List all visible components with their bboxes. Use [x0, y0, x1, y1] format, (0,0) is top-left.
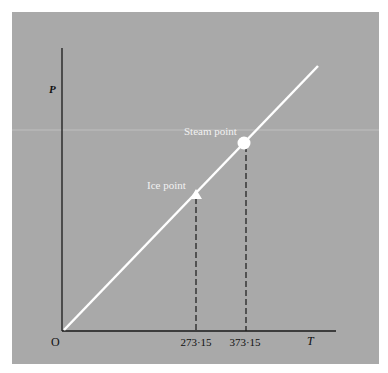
- steam-point-tick-label: 373·15: [229, 336, 261, 348]
- ice-point-triangle-icon: [190, 189, 202, 199]
- steam-point-circle-icon: [238, 137, 251, 150]
- ice-point-tick-label: 273·15: [180, 336, 212, 348]
- x-axis-label: T: [307, 334, 315, 348]
- steam-point-label: Steam point: [184, 125, 237, 137]
- y-axis-label: P: [49, 83, 56, 95]
- origin-label: O: [51, 335, 60, 349]
- p-vs-t-diagram: P O T 273·15 373·15 Ice point Steam poin…: [0, 0, 388, 373]
- ice-point-label: Ice point: [147, 179, 186, 191]
